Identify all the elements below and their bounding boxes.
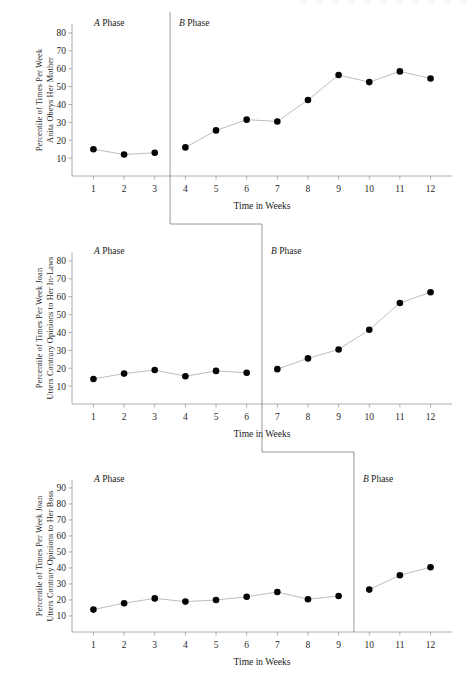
x-tick-label-2: 2 xyxy=(122,640,127,650)
y-tick-label-40: 40 xyxy=(57,100,67,110)
data-point-w5 xyxy=(213,127,220,134)
y-tick-label-90: 90 xyxy=(57,483,67,493)
y-tick-label-30: 30 xyxy=(57,579,67,589)
multiple-baseline-figure: 1020304050607080123456789101112Time in W… xyxy=(0,0,468,678)
x-tick-label-2: 2 xyxy=(122,412,127,422)
phase-b-letter: B xyxy=(179,18,185,28)
phase-a-letter: A xyxy=(93,246,100,256)
phase-b-letter: B xyxy=(363,474,369,484)
y-tick-label-40: 40 xyxy=(57,563,67,573)
data-point-w7 xyxy=(274,118,281,125)
x-tick-label-12: 12 xyxy=(426,412,436,422)
panel-1-phase-b-label: B Phase xyxy=(179,18,209,28)
x-tick-label-8: 8 xyxy=(306,640,311,650)
panel-3-ylabel-line1: Percentile of Times Per Week Joan xyxy=(35,495,44,616)
x-tick-label-5: 5 xyxy=(214,640,219,650)
x-tick-label-4: 4 xyxy=(183,640,188,650)
y-tick-label-10: 10 xyxy=(57,611,67,621)
x-tick-label-6: 6 xyxy=(244,640,249,650)
panel-2-phase-a-label: A Phase xyxy=(93,246,124,256)
x-tick-label-11: 11 xyxy=(395,412,404,422)
data-point-w11 xyxy=(397,300,404,307)
x-tick-label-3: 3 xyxy=(152,640,157,650)
x-tick-label-1: 1 xyxy=(91,640,96,650)
y-tick-label-60: 60 xyxy=(57,64,67,74)
x-tick-label-9: 9 xyxy=(336,184,341,194)
y-tick-label-70: 70 xyxy=(57,274,67,284)
y-tick-label-30: 30 xyxy=(57,346,67,356)
figure-canvas: 1020304050607080123456789101112Time in W… xyxy=(0,0,468,678)
panel-1-axes xyxy=(72,24,452,176)
x-tick-label-11: 11 xyxy=(395,640,404,650)
x-tick-label-6: 6 xyxy=(244,184,249,194)
data-point-w3 xyxy=(151,595,158,602)
x-tick-label-9: 9 xyxy=(336,640,341,650)
data-point-w3 xyxy=(151,367,158,374)
data-point-w1 xyxy=(90,146,97,153)
x-tick-label-6: 6 xyxy=(244,412,249,422)
panel-1-phase-a-label: A Phase xyxy=(93,18,124,28)
y-tick-label-50: 50 xyxy=(57,82,67,92)
y-tick-label-10: 10 xyxy=(57,154,67,164)
y-tick-label-20: 20 xyxy=(57,136,67,146)
panel-3-ylabel-line2: Utters Contrary Opinions to Her Boss xyxy=(46,491,55,622)
x-tick-label-7: 7 xyxy=(275,184,280,194)
x-tick-label-4: 4 xyxy=(183,412,188,422)
data-point-w11 xyxy=(397,68,404,75)
phase-a-letter: A xyxy=(93,474,100,484)
data-point-w10 xyxy=(366,586,373,593)
y-tick-label-60: 60 xyxy=(57,531,67,541)
data-point-w5 xyxy=(213,368,220,375)
data-point-w9 xyxy=(335,72,342,79)
y-tick-label-70: 70 xyxy=(57,46,67,56)
panel-2-phase-b-label: B Phase xyxy=(271,246,301,256)
data-point-w5 xyxy=(213,597,220,604)
y-tick-label-80: 80 xyxy=(57,28,67,38)
y-tick-label-60: 60 xyxy=(57,292,67,302)
x-tick-label-2: 2 xyxy=(122,184,127,194)
x-tick-label-8: 8 xyxy=(306,184,311,194)
x-tick-label-7: 7 xyxy=(275,412,280,422)
panel-1-xlabel: Time in Weeks xyxy=(234,201,291,211)
data-point-w12 xyxy=(427,564,434,571)
panel-2: 1020304050607080123456789101112Time in W… xyxy=(35,240,452,439)
y-tick-label-70: 70 xyxy=(57,515,67,525)
panel-2-ylabel-line1: Percentile of Times Per Week Joan xyxy=(35,267,44,388)
y-tick-label-80: 80 xyxy=(57,499,67,509)
x-tick-label-12: 12 xyxy=(426,184,436,194)
y-tick-label-80: 80 xyxy=(57,256,67,266)
y-tick-label-20: 20 xyxy=(57,364,67,374)
data-point-w12 xyxy=(427,289,434,296)
x-tick-label-3: 3 xyxy=(152,412,157,422)
data-point-w6 xyxy=(243,116,250,123)
panel-3-xlabel: Time in Weeks xyxy=(234,657,291,667)
data-point-w4 xyxy=(182,598,189,605)
x-tick-label-10: 10 xyxy=(365,184,375,194)
y-tick-label-50: 50 xyxy=(57,547,67,557)
x-tick-label-10: 10 xyxy=(365,640,375,650)
y-tick-label-40: 40 xyxy=(57,328,67,338)
panel-1-ylabel-line2: Anita Obeys Her Mother xyxy=(46,57,55,143)
data-point-w4 xyxy=(182,144,189,151)
data-point-w9 xyxy=(335,346,342,353)
panel-1: 1020304050607080123456789101112Time in W… xyxy=(35,12,452,211)
y-tick-label-20: 20 xyxy=(57,595,67,605)
panel-1-line-phase-b xyxy=(185,71,430,147)
data-point-w10 xyxy=(366,326,373,333)
data-point-w3 xyxy=(151,149,158,156)
data-point-w8 xyxy=(305,596,312,603)
panel-2-line-phase-b xyxy=(277,292,430,369)
panel-1-ylabel-line1: Percentile of Times Per Week xyxy=(35,48,44,151)
x-tick-label-8: 8 xyxy=(306,412,311,422)
data-point-w6 xyxy=(243,369,250,376)
data-point-w8 xyxy=(305,97,312,104)
x-tick-label-9: 9 xyxy=(336,412,341,422)
data-point-w10 xyxy=(366,79,373,86)
x-tick-label-3: 3 xyxy=(152,184,157,194)
data-point-w7 xyxy=(274,589,281,596)
x-tick-label-5: 5 xyxy=(214,412,219,422)
data-point-w2 xyxy=(121,370,128,377)
y-tick-label-50: 50 xyxy=(57,310,67,320)
x-tick-label-7: 7 xyxy=(275,640,280,650)
x-tick-label-1: 1 xyxy=(91,412,96,422)
